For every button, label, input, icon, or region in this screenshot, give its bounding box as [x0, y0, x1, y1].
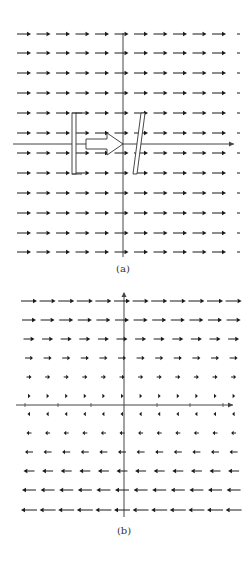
- panel-a-uniform-flow: [13, 32, 240, 257]
- vector-arrow-icon: [138, 431, 143, 435]
- vector-arrow-icon: [79, 337, 90, 341]
- vector-arrow-icon: [25, 356, 33, 360]
- vector-arrow-icon: [76, 211, 90, 215]
- vector-arrow-icon: [17, 51, 31, 55]
- vector-arrow-icon: [96, 488, 110, 492]
- vector-arrow-icon: [212, 32, 226, 36]
- vector-arrow-icon: [118, 356, 126, 360]
- vector-arrow-icon: [210, 337, 221, 341]
- vector-arrow-icon: [121, 394, 124, 398]
- vector-arrow-icon: [227, 318, 241, 322]
- vector-arrow-icon: [193, 71, 207, 75]
- vector-arrow-icon: [173, 171, 187, 175]
- vector-arrow-icon: [114, 299, 130, 303]
- vector-arrow-icon: [134, 51, 148, 55]
- vector-arrow-icon: [211, 450, 219, 454]
- vector-arrow-icon: [189, 318, 203, 322]
- vector-arrow-icon: [42, 469, 53, 473]
- vector-arrow-icon: [173, 91, 187, 95]
- vector-arrow-icon: [17, 71, 31, 75]
- vector-arrow-icon: [98, 469, 109, 473]
- vector-arrow-icon: [115, 250, 129, 254]
- vector-arrow-icon: [188, 299, 204, 303]
- vector-arrow-icon: [154, 337, 165, 341]
- vector-arrow-icon: [21, 299, 37, 303]
- vector-arrow-icon: [233, 394, 236, 398]
- vector-arrow-icon: [95, 51, 109, 55]
- vector-arrow-icon: [76, 32, 90, 36]
- vector-arrow-icon: [62, 356, 70, 360]
- vector-arrow-icon: [82, 431, 87, 435]
- panel-a-caption: (a): [116, 263, 130, 274]
- vector-arrow-icon: [188, 508, 204, 512]
- vector-arrow-icon: [22, 488, 36, 492]
- vector-arrow-icon: [44, 356, 52, 360]
- vector-arrow-icon: [98, 337, 109, 341]
- vector-arrow-icon: [154, 131, 168, 135]
- vector-arrow-icon: [77, 299, 93, 303]
- vector-arrow-icon: [58, 299, 74, 303]
- vector-arrow-icon: [152, 318, 166, 322]
- vector-arrow-icon: [193, 91, 207, 95]
- vector-arrow-icon: [192, 356, 200, 360]
- vector-arrow-icon: [231, 375, 236, 379]
- vector-arrow-icon: [59, 318, 73, 322]
- vector-arrow-icon: [114, 508, 130, 512]
- vector-arrow-icon: [152, 488, 166, 492]
- panel-b-shear-flow: [16, 292, 242, 517]
- vector-arrow-icon: [46, 412, 49, 416]
- vector-arrow-icon: [154, 250, 168, 254]
- vector-arrow-icon: [137, 356, 145, 360]
- vector-arrow-icon: [192, 450, 200, 454]
- vector-arrow-icon: [45, 375, 50, 379]
- vector-arrow-icon: [115, 111, 129, 115]
- vector-arrow-icon: [193, 250, 207, 254]
- vector-arrow-icon: [28, 412, 31, 416]
- vector-arrow-icon: [193, 211, 207, 215]
- vector-arrow-icon: [207, 508, 223, 512]
- vector-arrow-icon: [175, 431, 180, 435]
- vector-arrow-icon: [154, 71, 168, 75]
- vector-arrow-icon: [133, 508, 149, 512]
- vector-arrow-icon: [191, 337, 202, 341]
- vector-arrow-icon: [227, 488, 241, 492]
- vector-arrow-icon: [47, 394, 50, 398]
- vector-arrow-icon: [135, 469, 146, 473]
- vector-arrow-icon: [24, 469, 35, 473]
- vector-arrow-icon: [173, 231, 187, 235]
- vector-arrow-icon: [195, 394, 198, 398]
- vector-arrow-icon: [173, 71, 187, 75]
- vector-arrow-icon: [83, 412, 86, 416]
- vector-arrow-icon: [76, 231, 90, 235]
- vector-arrow-icon: [226, 508, 242, 512]
- vector-arrow-icon: [170, 299, 186, 303]
- vector-arrow-icon: [177, 394, 180, 398]
- vector-arrow-icon: [154, 91, 168, 95]
- vector-arrow-icon: [173, 32, 187, 36]
- vector-arrow-icon: [208, 488, 222, 492]
- vector-arrow-icon: [208, 318, 222, 322]
- vector-arrow-icon: [76, 131, 90, 135]
- vector-arrow-icon: [134, 250, 148, 254]
- vector-arrow-icon: [214, 412, 217, 416]
- vector-arrow-icon: [95, 231, 109, 235]
- vector-arrow-icon: [115, 318, 129, 322]
- vector-arrow-icon: [82, 375, 87, 379]
- vector-arrow-icon: [95, 91, 109, 95]
- vector-arrow-icon: [17, 151, 31, 155]
- vector-arrow-icon: [99, 450, 107, 454]
- vector-arrow-icon: [37, 250, 51, 254]
- vector-arrow-icon: [44, 450, 52, 454]
- vector-arrow-icon: [207, 299, 223, 303]
- vector-arrow-icon: [173, 51, 187, 55]
- vector-arrow-icon: [172, 337, 183, 341]
- vector-arrow-icon: [170, 508, 186, 512]
- vector-arrow-icon: [173, 131, 187, 135]
- vector-arrow-icon: [102, 394, 105, 398]
- vector-arrow-icon: [193, 151, 207, 155]
- vector-arrow-icon: [28, 394, 31, 398]
- vector-arrow-icon: [115, 171, 129, 175]
- vector-arrow-icon: [95, 111, 109, 115]
- vector-arrow-icon: [193, 191, 207, 195]
- vector-arrow-icon: [17, 91, 31, 95]
